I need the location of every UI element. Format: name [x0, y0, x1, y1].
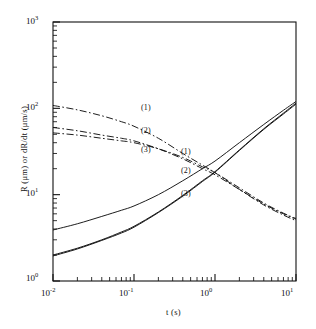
y-axis-title: R (μm) or dR/dt (μm/s)	[19, 106, 29, 192]
x-tick-label-0: 10-2	[41, 289, 55, 298]
x-tick-label-2: 100	[200, 289, 212, 298]
figure-root: 103 102 101 100 10-2 10-1 100 101 R (μm)…	[0, 0, 316, 329]
curve-rate-2	[53, 127, 296, 219]
y-tick-label-0: 100	[26, 274, 38, 283]
y-tick-label-3: 103	[26, 17, 38, 26]
curve-radius-1	[53, 102, 296, 230]
curve-rate-3	[53, 133, 296, 219]
curve-label-rate-3: (3)	[141, 146, 151, 154]
data-curves	[53, 102, 296, 256]
x-axis-title: t (s)	[166, 308, 181, 317]
curve-radius-3	[53, 104, 296, 256]
y-axis-ticks	[53, 22, 60, 281]
x-tick-label-1: 10-1	[119, 289, 133, 298]
curve-label-radius-3: (3)	[181, 190, 191, 198]
x-axis-ticks	[53, 274, 296, 281]
curve-label-radius-1: (1)	[181, 148, 191, 156]
curve-label-rate-2: (2)	[141, 127, 151, 135]
plot-canvas	[0, 0, 316, 329]
y-axis-title-wrap: R (μm) or dR/dt (μm/s)	[13, 89, 31, 209]
plot-frame	[53, 22, 296, 281]
curve-rate-1	[53, 105, 296, 220]
curve-radius-2	[53, 103, 296, 255]
x-tick-label-3: 101	[281, 289, 293, 298]
curve-label-rate-1: (1)	[141, 104, 151, 112]
curve-label-radius-2: (2)	[181, 167, 191, 175]
